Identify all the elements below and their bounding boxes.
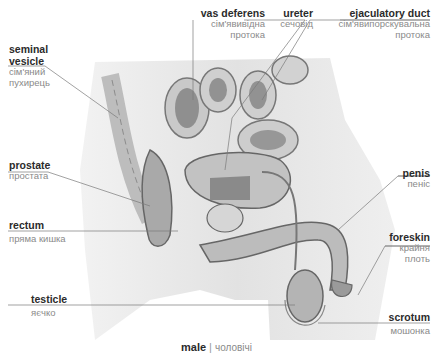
caption-separator: |	[209, 341, 212, 353]
label-prostate: prostate простата	[9, 159, 50, 182]
label-ureter: ureter сечовід	[275, 7, 313, 30]
label-en: scrotum	[370, 311, 430, 323]
label-ua: плоть	[370, 254, 430, 265]
label-seminal-vesicle: seminal vesicle сім'яний пухирець	[9, 43, 50, 89]
label-ua: пухирець	[9, 78, 50, 89]
label-ua: пеніс	[380, 179, 430, 190]
label-scrotum: scrotum мошонка	[370, 311, 430, 337]
anatomy-diagram: seminal vesicle сім'яний пухирець vas de…	[0, 0, 433, 359]
caption-ua: чоловічі	[215, 342, 252, 353]
label-vas-deferens: vas deferens сім'явивідна протока	[195, 7, 265, 41]
label-ua: простата	[9, 171, 50, 182]
label-ua: пряма кишка	[9, 234, 66, 245]
label-rectum: rectum пряма кишка	[9, 219, 66, 245]
prostate	[207, 204, 243, 232]
label-ua: яєчко	[31, 308, 67, 319]
label-ua: протока	[195, 30, 265, 41]
label-foreskin: foreskin крайня плоть	[370, 231, 430, 265]
label-en: seminal	[9, 43, 50, 55]
label-ua: протока	[322, 30, 430, 41]
label-ejaculatory-duct: ejaculatory duct сім'явипорскувальна про…	[322, 7, 430, 41]
diagram-caption: male|чоловічі	[0, 341, 433, 353]
label-en: testicle	[31, 293, 67, 305]
label-testicle: testicle яєчко	[31, 293, 67, 319]
testicle	[287, 270, 323, 322]
label-ua: сечовід	[275, 19, 313, 30]
label-ua: мошонка	[370, 326, 430, 337]
label-en: rectum	[9, 219, 66, 231]
label-penis: penis пеніс	[380, 167, 430, 190]
caption-en: male	[181, 341, 206, 353]
